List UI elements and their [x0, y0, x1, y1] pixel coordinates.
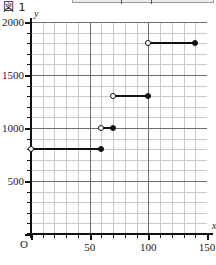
y-tick-label: 1500: [2, 69, 24, 81]
closed-circle-marker: [110, 125, 116, 131]
y-tick-label: 500: [8, 175, 25, 187]
step-segment: [31, 148, 101, 150]
closed-circle-marker: [98, 146, 104, 152]
figure-caption: 図 1: [3, 1, 26, 14]
origin-label: O: [20, 238, 28, 250]
toolbar-divider: [151, 0, 152, 4]
x-tick-label: 100: [140, 241, 157, 253]
open-circle-marker: [28, 146, 34, 152]
step-segment: [113, 95, 148, 97]
step-segment: [148, 42, 195, 44]
top-toolbar-strip: [72, 0, 214, 3]
closed-circle-marker: [192, 40, 198, 46]
x-tick: [207, 233, 209, 240]
x-tick-label: 50: [84, 241, 95, 253]
chart-plot-area: y x O 500100015002000 50100150: [31, 22, 207, 234]
x-tick: [90, 233, 92, 240]
y-tick-label: 1000: [2, 122, 24, 134]
toolbar-divider: [121, 0, 122, 4]
open-circle-marker: [145, 40, 151, 46]
x-tick: [148, 233, 150, 240]
x-tick: [31, 233, 33, 240]
x-tick-label: 150: [199, 241, 216, 253]
open-circle-marker: [98, 125, 104, 131]
closed-circle-marker: [145, 93, 151, 99]
y-tick-label: 2000: [2, 16, 24, 28]
open-circle-marker: [110, 93, 116, 99]
step-function-series: [31, 22, 207, 234]
y-axis-name: y: [34, 8, 38, 19]
x-axis-name: x: [212, 220, 216, 231]
